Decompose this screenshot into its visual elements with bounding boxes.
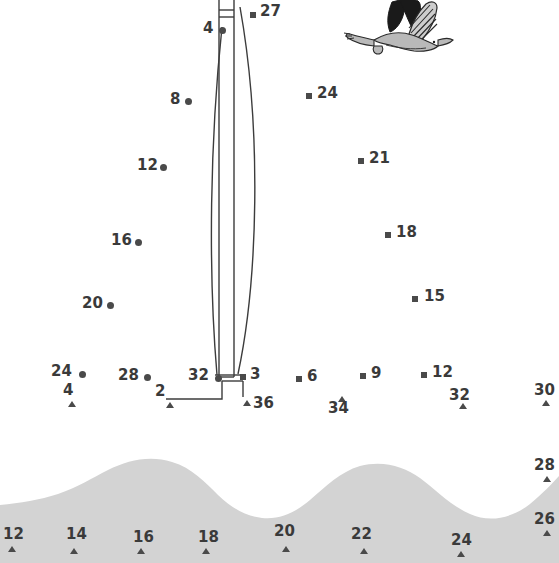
- triangle-marker-icon: [166, 402, 174, 408]
- dot-number-label: 24: [451, 533, 472, 548]
- dot-number-label: 24: [317, 86, 338, 101]
- dot-number-label: 28: [118, 368, 139, 383]
- wave-silhouette: [0, 459, 559, 563]
- dot-number-label: 27: [260, 4, 281, 19]
- triangle-marker-icon: [137, 548, 145, 554]
- dot-number-label: 4: [63, 383, 73, 398]
- dot-number-label: 15: [424, 289, 445, 304]
- dot-number-label: 32: [449, 388, 470, 403]
- square-marker-icon: [360, 373, 366, 379]
- dot-number-label: 16: [133, 530, 154, 545]
- dot-number-label: 20: [274, 524, 295, 539]
- dot-number-label: 26: [534, 512, 555, 527]
- dot-number-label: 8: [170, 92, 180, 107]
- dot-number-label: 24: [51, 364, 72, 379]
- circle-marker-icon: [107, 302, 114, 309]
- dot-number-label: 2: [155, 384, 165, 399]
- square-marker-icon: [240, 374, 246, 380]
- puzzle-canvas: 2742482112181615202428323691242363432302…: [0, 0, 559, 563]
- square-marker-icon: [306, 93, 312, 99]
- dot-number-label: 6: [307, 369, 317, 384]
- dot-number-label: 3: [250, 367, 260, 382]
- dot-number-label: 18: [198, 530, 219, 545]
- dot-number-label: 16: [111, 233, 132, 248]
- triangle-marker-icon: [542, 400, 550, 406]
- circle-marker-icon: [79, 371, 86, 378]
- dot-number-label: 22: [351, 527, 372, 542]
- square-marker-icon: [296, 376, 302, 382]
- dot-number-label: 18: [396, 225, 417, 240]
- circle-marker-icon: [185, 98, 192, 105]
- triangle-marker-icon: [243, 400, 251, 406]
- triangle-marker-icon: [70, 548, 78, 554]
- dot-number-label: 4: [203, 21, 213, 36]
- circle-marker-icon: [219, 27, 226, 34]
- artwork-layer: [0, 0, 559, 563]
- dot-number-label: 28: [534, 458, 555, 473]
- circle-marker-icon: [215, 375, 222, 382]
- dot-number-label: 36: [253, 396, 274, 411]
- square-marker-icon: [358, 158, 364, 164]
- dot-number-label: 12: [3, 527, 24, 542]
- dot-number-label: 30: [534, 383, 555, 398]
- circle-marker-icon: [144, 374, 151, 381]
- dot-number-label: 20: [82, 296, 103, 311]
- dot-number-label: 9: [371, 366, 381, 381]
- circle-marker-icon: [135, 239, 142, 246]
- dot-number-label: 32: [188, 368, 209, 383]
- dot-number-label: 14: [66, 527, 87, 542]
- dot-number-label: 12: [137, 158, 158, 173]
- square-marker-icon: [421, 372, 427, 378]
- dot-number-label: 12: [432, 365, 453, 380]
- dot-number-label: 34: [328, 401, 349, 416]
- triangle-marker-icon: [68, 401, 76, 407]
- partial-sailboat-outline: [166, 0, 255, 399]
- triangle-marker-icon: [202, 548, 210, 554]
- square-marker-icon: [412, 296, 418, 302]
- seagull-illustration: [344, 0, 453, 54]
- circle-marker-icon: [160, 164, 167, 171]
- triangle-marker-icon: [282, 546, 290, 552]
- triangle-marker-icon: [360, 548, 368, 554]
- triangle-marker-icon: [543, 476, 551, 482]
- triangle-marker-icon: [543, 530, 551, 536]
- dot-number-label: 21: [369, 151, 390, 166]
- square-marker-icon: [385, 232, 391, 238]
- square-marker-icon: [250, 12, 256, 18]
- triangle-marker-icon: [8, 546, 16, 552]
- triangle-marker-icon: [457, 551, 465, 557]
